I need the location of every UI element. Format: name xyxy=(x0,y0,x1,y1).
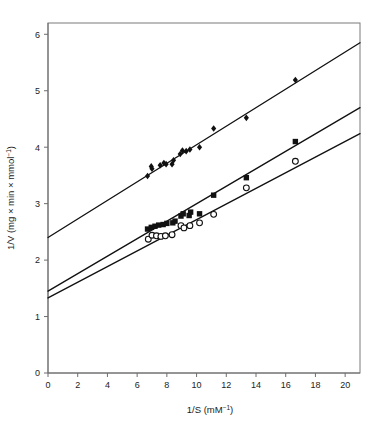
x-tick-label: 0 xyxy=(45,380,50,390)
data-point-circle xyxy=(243,185,249,191)
x-axis-title: 1/S (mM−1) xyxy=(187,404,233,416)
data-point-circle xyxy=(181,225,187,231)
y-axis-title: 1/V (mg × min × mmol−1) xyxy=(5,146,17,250)
data-point-square xyxy=(244,175,249,180)
x-axis-ticks: 02468101214161820 xyxy=(45,373,350,390)
x-tick-label: 12 xyxy=(221,380,231,390)
x-tick-label: 18 xyxy=(310,380,320,390)
y-tick-label: 2 xyxy=(35,255,40,265)
svg-text:1/V (mg × min × mmol−1): 1/V (mg × min × mmol−1) xyxy=(5,146,17,250)
y-tick-label: 4 xyxy=(35,143,40,153)
data-point-diamond xyxy=(211,125,216,132)
data-point-square xyxy=(181,211,186,216)
lineweaver-burk-figure: 02468101214161820 0123456 1/S (mM−1) 1/V… xyxy=(0,0,378,421)
x-tick-label: 4 xyxy=(105,380,110,390)
y-axis-ticks: 0123456 xyxy=(35,30,48,379)
y-tick-label: 6 xyxy=(35,30,40,40)
data-markers xyxy=(145,77,298,242)
chart-canvas: 02468101214161820 0123456 1/S (mM−1) 1/V… xyxy=(0,0,378,421)
data-point-circle xyxy=(169,232,175,238)
y-tick-label: 0 xyxy=(35,368,40,378)
data-point-circle xyxy=(197,220,203,226)
data-point-square xyxy=(197,211,202,216)
data-point-square xyxy=(172,218,177,223)
x-tick-label: 2 xyxy=(75,380,80,390)
fit-line-series-squares xyxy=(48,108,360,292)
data-point-square xyxy=(293,139,298,144)
x-tick-label: 20 xyxy=(340,380,350,390)
data-point-circle xyxy=(211,211,217,217)
x-tick-label: 14 xyxy=(251,380,261,390)
data-point-square xyxy=(188,209,193,214)
x-tick-label: 10 xyxy=(192,380,202,390)
plot-frame xyxy=(48,23,360,373)
plot-border-box xyxy=(48,23,360,373)
data-point-square xyxy=(211,192,216,197)
svg-text:1/S (mM−1): 1/S (mM−1) xyxy=(187,404,233,416)
x-tick-label: 16 xyxy=(281,380,291,390)
data-point-circle xyxy=(292,158,298,164)
y-tick-label: 3 xyxy=(35,199,40,209)
data-point-circle xyxy=(187,223,193,229)
x-tick-label: 6 xyxy=(135,380,140,390)
fit-line-series-diamonds xyxy=(48,43,360,238)
regression-lines xyxy=(48,43,360,298)
y-tick-label: 5 xyxy=(35,86,40,96)
x-tick-label: 8 xyxy=(164,380,169,390)
data-point-square xyxy=(164,221,169,226)
data-point-diamond xyxy=(197,144,202,151)
fit-line-series-open-circles xyxy=(48,134,360,298)
data-point-circle xyxy=(162,233,168,239)
y-tick-label: 1 xyxy=(35,312,40,322)
